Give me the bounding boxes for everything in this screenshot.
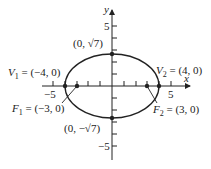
focus-f2-dot: [145, 84, 149, 88]
ellipse-diagram: y x −5 5 5 −5 (0, √7) (0, −√7) V1 = (−4,…: [0, 0, 211, 169]
x-tick-neg5: −5: [44, 88, 56, 100]
covertex-bottom-label: (0, −√7): [64, 122, 100, 135]
vertex-v2-dot: [157, 84, 161, 88]
vertex-v1-label: V1 = (−4, 0): [8, 66, 61, 81]
vertex-v1-dot: [63, 84, 67, 88]
y-tick-pos5: 5: [104, 20, 110, 32]
y-tick-neg5: −5: [98, 140, 110, 152]
vertex-v2-label: V2 = (4, 0): [156, 64, 203, 79]
f2-leader: [147, 86, 157, 103]
focus-f2-label: F2 = (3, 0): [152, 103, 200, 118]
covertex-bottom-dot: [110, 116, 114, 120]
focus-f1-dot: [75, 84, 79, 88]
y-axis-label: y: [103, 3, 109, 15]
x-tick-pos5: 5: [168, 88, 174, 100]
focus-f1-label: F1 = (−3, 0): [11, 102, 65, 117]
covertex-top-label: (0, √7): [73, 37, 103, 50]
covertex-top-dot: [110, 52, 114, 56]
